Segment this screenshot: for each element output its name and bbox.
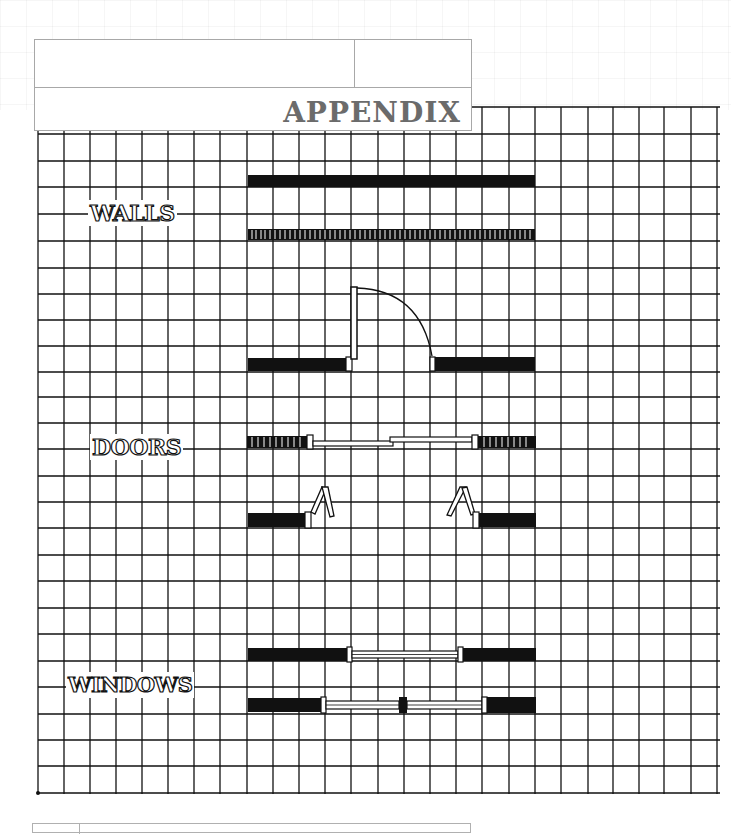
walls-label: WALLS (88, 200, 177, 226)
grid-corner-dot (36, 791, 40, 795)
title-block-bottom-row: APPENDIX (35, 88, 471, 130)
doors-label: DOORS (90, 434, 183, 460)
title-block-cell-left (35, 40, 354, 87)
swing-door-symbol (248, 287, 535, 371)
windows-label: WINDOWS (66, 672, 194, 698)
page-title: APPENDIX (283, 96, 461, 129)
title-block: APPENDIX (34, 39, 472, 131)
hatched-wall-symbol (248, 229, 535, 240)
solid-wall-symbol (248, 175, 535, 187)
bifold-door-symbol (248, 487, 536, 528)
double-window-symbol (248, 697, 536, 713)
bottom-block-divider (79, 824, 80, 834)
single-window-symbol (248, 647, 536, 662)
title-block-top-row (35, 40, 471, 88)
bottom-title-block (32, 823, 471, 833)
sliding-door-symbol (247, 435, 536, 449)
title-block-cell-right (355, 40, 471, 87)
